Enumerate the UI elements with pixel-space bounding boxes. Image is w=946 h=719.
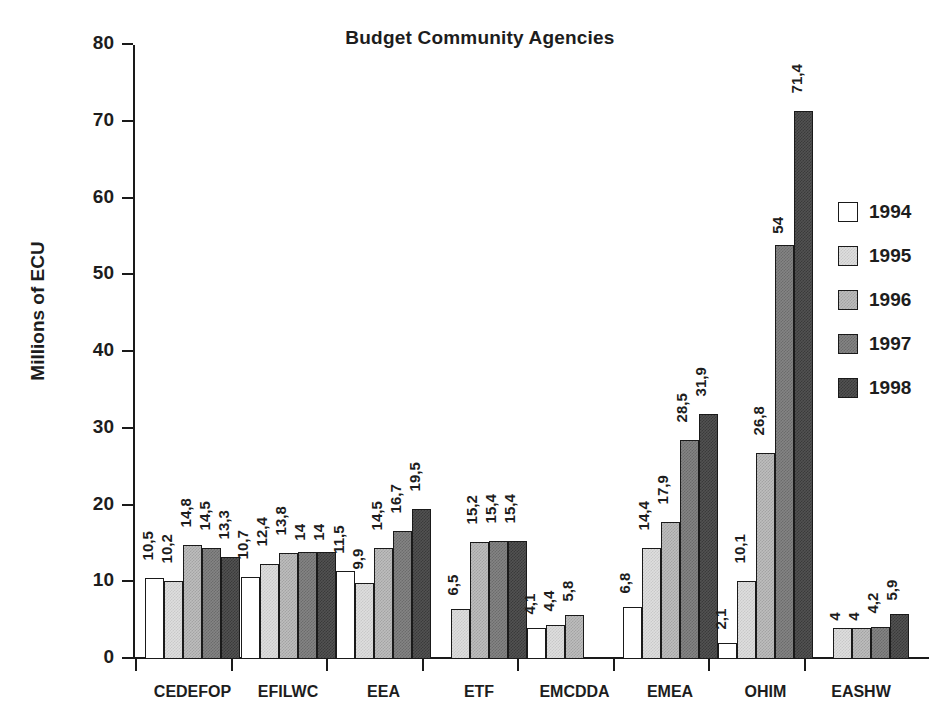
bar: 28,5 [680, 440, 699, 659]
bar-value-label: 10,7 [235, 530, 250, 559]
bar: 4 [833, 628, 852, 659]
bar-value-label: 26,8 [751, 407, 766, 436]
bar: 10,1 [737, 581, 756, 659]
bar: 15,4 [489, 541, 508, 659]
y-axis-tick-label: 50 [80, 262, 114, 284]
bar: 4,4 [546, 625, 565, 659]
medium-gray-swatch [838, 290, 858, 310]
x-axis-tick [422, 659, 424, 671]
y-axis-tick: 80 [122, 43, 133, 45]
bar-value-label: 10,5 [140, 532, 155, 561]
bar: 9,9 [355, 583, 374, 659]
y-axis-tick-label: 80 [80, 32, 114, 54]
bar-value-label: 2,1 [713, 609, 728, 630]
y-axis-label: Millions of ECU [27, 211, 49, 411]
plot-area: 01020304050607080 10,510,214,814,513,310… [133, 45, 929, 659]
bar-value-label: 15,4 [483, 494, 498, 523]
bar-value-label: 71,4 [789, 64, 804, 93]
x-axis-tick [517, 659, 519, 671]
bar: 16,7 [393, 531, 412, 659]
bar-value-label: 16,7 [388, 484, 403, 513]
bar: 17,9 [661, 522, 680, 659]
bar: 13,3 [221, 557, 240, 659]
bar-value-label: 17,9 [655, 475, 670, 504]
bar-value-label: 10,2 [159, 534, 174, 563]
legend-label: 1998 [869, 377, 911, 399]
bar-value-label: 14,4 [636, 502, 651, 531]
bar: 15,2 [470, 542, 489, 659]
bar-value-label: 15,4 [502, 494, 517, 523]
bar: 14,8 [183, 545, 202, 659]
dark-gray-swatch [838, 334, 858, 354]
bar-value-label: 31,9 [693, 367, 708, 396]
white-swatch [838, 202, 858, 222]
legend-item-1994[interactable]: 1994 [838, 190, 938, 234]
bar: 14 [317, 552, 336, 659]
legend: 19941995199619971998 [838, 190, 938, 410]
legend-item-1998[interactable]: 1998 [838, 366, 938, 410]
y-axis-tick: 40 [122, 350, 133, 352]
bar: 2,1 [718, 643, 737, 659]
legend-item-1996[interactable]: 1996 [838, 278, 938, 322]
bar-value-label: 6,5 [445, 575, 460, 596]
bar: 6,5 [451, 609, 470, 659]
y-axis-tick-label: 20 [80, 493, 114, 515]
bar-value-label: 4 [827, 613, 842, 621]
x-axis-tick [326, 659, 328, 671]
bar-chart: Budget Community Agencies Millions of EC… [0, 0, 946, 719]
legend-item-1997[interactable]: 1997 [838, 322, 938, 366]
bar-value-label: 14,5 [197, 501, 212, 530]
bar-value-label: 14 [311, 524, 326, 541]
bar: 10,2 [164, 581, 183, 659]
legend-label: 1997 [869, 333, 911, 355]
bar: 26,8 [756, 453, 775, 659]
x-axis-tick [613, 659, 615, 671]
legend-label: 1995 [869, 245, 911, 267]
bar-value-label: 11,5 [331, 525, 346, 553]
bar: 14 [298, 552, 317, 659]
light-gray-swatch [838, 246, 858, 266]
y-axis-line [133, 45, 135, 659]
x-axis-tick [708, 659, 710, 671]
legend-item-1995[interactable]: 1995 [838, 234, 938, 278]
bar-value-label: 4,1 [522, 593, 537, 614]
bar: 6,8 [623, 607, 642, 659]
y-axis-tick: 0 [122, 657, 133, 659]
x-axis-tick [231, 659, 233, 671]
bar-value-label: 28,5 [674, 393, 689, 422]
y-axis-tick-label: 70 [80, 109, 114, 131]
bar: 4,2 [871, 627, 890, 659]
bar-value-label: 14 [292, 524, 307, 541]
y-axis-tick-label: 10 [80, 569, 114, 591]
bar-value-label: 4 [846, 613, 861, 621]
bar-value-label: 4,2 [865, 592, 880, 613]
bar: 10,7 [241, 577, 260, 659]
bar: 4,1 [527, 628, 546, 659]
y-axis-tick: 10 [122, 580, 133, 582]
bar: 4 [852, 628, 871, 659]
y-axis-tick-label: 40 [80, 339, 114, 361]
bar-value-label: 10,1 [732, 535, 747, 564]
bar-value-label: 5,8 [560, 580, 575, 601]
bar: 5,8 [565, 615, 584, 660]
y-axis-tick-label: 30 [80, 416, 114, 438]
y-axis-tick: 50 [122, 273, 133, 275]
bar-value-label: 6,8 [617, 573, 632, 594]
bar: 19,5 [412, 509, 431, 659]
bar: 10,5 [145, 578, 164, 659]
bar-value-label: 13,8 [273, 506, 288, 535]
bar-value-label: 4,4 [541, 591, 556, 612]
darkest-gray-swatch [838, 378, 858, 398]
y-axis-tick-label: 60 [80, 186, 114, 208]
bar: 14,5 [202, 548, 221, 659]
y-axis-tick: 30 [122, 427, 133, 429]
bar: 11,5 [336, 571, 355, 659]
bar: 14,4 [642, 548, 661, 659]
bar-value-label: 14,8 [178, 499, 193, 528]
bar-value-label: 9,9 [350, 549, 365, 570]
bar-value-label: 14,5 [369, 501, 384, 530]
legend-label: 1996 [869, 289, 911, 311]
bar: 12,4 [260, 564, 279, 659]
x-axis-tick [804, 659, 806, 671]
bar-value-label: 15,2 [464, 496, 479, 525]
